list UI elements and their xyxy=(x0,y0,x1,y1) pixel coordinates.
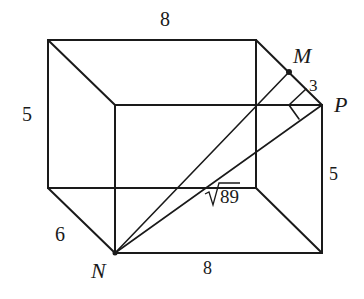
point-n-dot xyxy=(113,251,118,256)
label-point-p: P xyxy=(333,92,347,117)
segment-NM xyxy=(115,72,289,253)
label-diagonal-radicand: 89 xyxy=(220,186,239,207)
label-left-edge: 5 xyxy=(22,103,32,125)
label-mp-segment: 3 xyxy=(309,76,318,95)
box-diagram: 8 5 5 6 8 3 89 M P N xyxy=(0,0,364,299)
label-point-m: M xyxy=(292,43,313,68)
edge-depth-bottom-right xyxy=(256,188,322,253)
label-diagonal: 89 xyxy=(205,183,240,207)
label-right-edge: 5 xyxy=(329,164,338,184)
edge-depth-top-left xyxy=(48,40,115,105)
label-depth-edge: 6 xyxy=(55,223,65,245)
label-top-edge: 8 xyxy=(160,8,170,30)
label-bottom-edge: 8 xyxy=(203,258,212,278)
label-point-n: N xyxy=(90,258,107,283)
point-m-dot xyxy=(286,69,292,75)
segment-NP xyxy=(115,105,322,253)
